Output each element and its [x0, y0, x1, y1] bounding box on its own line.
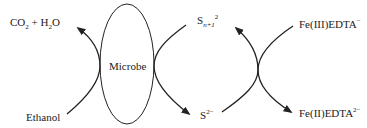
- fe3-to-fe2-arrow: [258, 26, 293, 112]
- polysulfide-label: Sn+12: [197, 14, 218, 29]
- sulfide-to-polysulfide-arrow: [222, 28, 258, 112]
- ethanol-to-co2-arrow: [67, 28, 100, 114]
- polysulfide-to-sulfide-arrow: [154, 25, 189, 114]
- ethanol-label: Ethanol: [26, 112, 60, 123]
- fe3-edta-label: Fe(III)EDTA−: [299, 18, 361, 30]
- microbe-label: Microbe: [109, 61, 146, 72]
- co2-h2o-label: CO2 + H2O: [10, 17, 60, 31]
- fe2-edta-label: Fe(II)EDTA2−: [299, 107, 361, 119]
- sulfide-label: S2−: [200, 109, 214, 121]
